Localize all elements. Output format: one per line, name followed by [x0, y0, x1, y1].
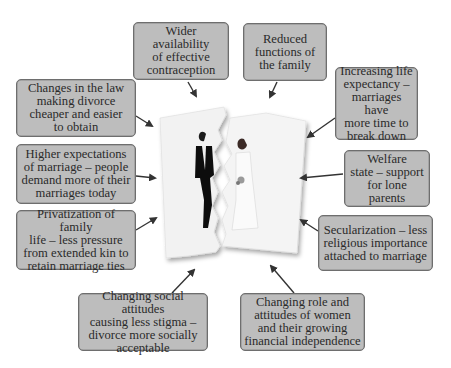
cause-text: Wider availability of effective contrace… [137, 25, 225, 77]
cause-text: Welfare state – support for lone parents [348, 153, 426, 205]
cause-text: Changing role and attitudes of women and… [244, 296, 360, 348]
cause-text: Privatization of family life – less pres… [20, 208, 132, 273]
cause-text: Increasing life expectancy – marriages h… [339, 65, 414, 143]
cause-box-higher-expectations: Higher expectations of marriage – people… [16, 144, 136, 204]
cause-box-contraception: Wider availability of effective contrace… [133, 22, 229, 80]
cause-text: Reduced functions of the family [255, 33, 316, 72]
cause-box-privatization: Privatization of family life – less pres… [16, 210, 136, 270]
cause-box-law-changes: Changes in the law making divorce cheape… [16, 79, 136, 137]
cause-text: Changes in the law making divorce cheape… [28, 82, 124, 134]
torn-photo-right [222, 113, 306, 253]
cause-box-reduced-functions: Reduced functions of the family [243, 23, 327, 81]
cause-text: Higher expectations of marriage – people… [22, 148, 131, 200]
cause-box-women-role: Changing role and attitudes of women and… [240, 293, 365, 351]
cause-box-secularization: Secularization – less religious importan… [318, 215, 433, 271]
cause-text: Secularization – less religious importan… [324, 224, 428, 263]
cause-text: Changing social attitudes causing less s… [82, 290, 204, 355]
torn-photo-left [160, 107, 226, 258]
cause-box-social-attitudes: Changing social attitudes causing less s… [78, 293, 208, 351]
cause-box-welfare-state: Welfare state – support for lone parents [344, 150, 430, 207]
cause-box-life-expectancy: Increasing life expectancy – marriages h… [335, 67, 418, 140]
